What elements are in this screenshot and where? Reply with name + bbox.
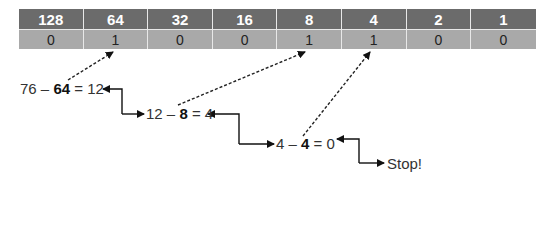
- step-2-equation: 12 – 8 = 4: [146, 105, 213, 123]
- equals: =: [188, 105, 205, 122]
- operator: –: [284, 135, 301, 152]
- step-1-equation: 76 – 64 = 12: [20, 80, 104, 98]
- result: 0: [326, 135, 334, 152]
- stop-label: Stop!: [387, 155, 422, 173]
- result: 12: [87, 80, 104, 97]
- subtrahend: 8: [179, 105, 187, 122]
- minuend: 12: [146, 105, 163, 122]
- operator: –: [37, 80, 54, 97]
- step-3-equation: 4 – 4 = 0: [276, 135, 335, 153]
- result: 4: [205, 105, 213, 122]
- equals: =: [70, 80, 87, 97]
- operator: –: [163, 105, 180, 122]
- equals: =: [309, 135, 326, 152]
- minuend: 76: [20, 80, 37, 97]
- subtrahend: 64: [53, 80, 70, 97]
